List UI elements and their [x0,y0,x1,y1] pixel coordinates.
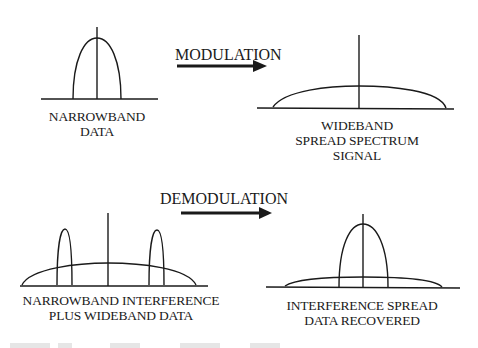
caption-line-2: DATA RECOVERED [304,313,420,328]
interference-peak-right [149,230,164,285]
modulation-arrow-group: MODULATION [175,46,282,72]
wideband-signal-panel: WIDEBAND SPREAD SPECTRUM SIGNAL [257,35,454,163]
cropped-figure-caption [10,343,280,348]
baseline [257,108,454,109]
caption-line-1: NARROWBAND INTERFERENCE [23,293,220,308]
data-recovered-panel: INTERFERENCE SPREAD DATA RECOVERED [266,214,460,328]
wideband-data-curve [22,263,196,285]
caption-line-2: SPREAD SPECTRUM [295,133,419,148]
caption-line-1: INTERFERENCE SPREAD [286,298,438,313]
demodulation-arrow-group: DEMODULATION [160,190,288,219]
interference-plus-data-panel: NARROWBAND INTERFERENCE PLUS WIDEBAND DA… [20,213,219,323]
interference-peak-left [57,229,72,285]
caption-line-1: NARROWBAND [49,109,146,124]
demodulation-label: DEMODULATION [160,190,288,207]
caption-line-2: DATA [80,124,115,139]
caption-line-3: SIGNAL [333,148,381,163]
spread-spectrum-diagram: NARROWBAND DATA MODULATION WIDEBAND SPRE… [0,0,478,348]
caption-line-2: PLUS WIDEBAND DATA [49,308,194,323]
arrow-right-icon [259,207,272,219]
narrowband-data-panel: NARROWBAND DATA [41,27,158,139]
modulation-label: MODULATION [175,46,282,63]
baseline [266,287,460,288]
caption-line-1: WIDEBAND [321,118,393,133]
